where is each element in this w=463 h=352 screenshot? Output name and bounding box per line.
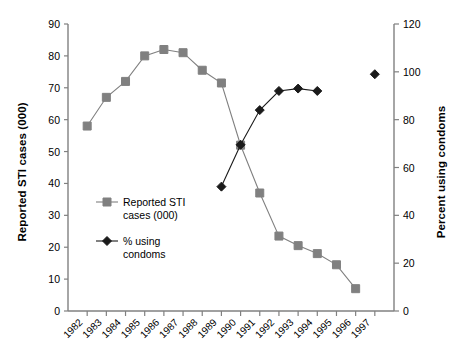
y-axis-left-tick-label: 70 (48, 82, 60, 94)
x-axis-tick-label: 1997 (349, 316, 373, 340)
y-axis-right-tick-label: 0 (403, 305, 409, 317)
legend-label-line2: condoms (123, 248, 166, 260)
x-axis-tick-label: 1996 (330, 316, 354, 340)
x-axis: 1982198319841985198619871988198919901991… (61, 311, 394, 340)
data-point-marker[interactable] (122, 77, 130, 85)
y-axis-left: 0102030405060708090 (48, 18, 68, 317)
x-axis-tick-label: 1995 (310, 316, 334, 340)
y-axis-left-tick-label: 90 (48, 18, 60, 30)
legend-label-line1: % using (123, 235, 161, 247)
data-point-marker[interactable] (332, 261, 340, 269)
x-axis-tick-label: 1984 (99, 316, 123, 340)
data-point-marker[interactable] (370, 70, 379, 79)
x-axis-tick-label: 1988 (176, 316, 200, 340)
chart-legend: Reported STIcases (000)% usingcondoms (96, 196, 185, 260)
y-axis-right-tick-label: 100 (403, 66, 421, 78)
x-axis-tick-label: 1994 (291, 316, 315, 340)
x-axis-tick-label: 1985 (119, 316, 143, 340)
y-axis-right: 020406080100120 (394, 18, 421, 317)
x-axis-tick-label: 1991 (234, 316, 258, 340)
data-point-marker[interactable] (352, 285, 360, 293)
x-axis-tick-label: 1993 (272, 316, 296, 340)
chart-plot-area: 0102030405060708090 020406080100120 1982… (0, 0, 463, 352)
x-axis-tick-label: 1987 (157, 316, 181, 340)
data-point-marker[interactable] (217, 79, 225, 87)
legend-label-line1: Reported STI (123, 196, 185, 208)
legend-marker-diamond (103, 237, 112, 246)
x-axis-tick-label: 1982 (61, 316, 85, 340)
data-point-marker[interactable] (141, 52, 149, 60)
data-point-marker[interactable] (83, 122, 91, 130)
data-point-marker[interactable] (294, 84, 303, 93)
y-axis-right-tick-label: 60 (403, 162, 415, 174)
data-point-marker[interactable] (160, 46, 168, 54)
x-axis-tick-label: 1992 (253, 316, 277, 340)
series-line-condoms (221, 89, 317, 187)
y-axis-right-tick-label: 40 (403, 209, 415, 221)
data-point-marker[interactable] (179, 49, 187, 57)
data-point-marker[interactable] (294, 242, 302, 250)
data-point-marker[interactable] (102, 93, 110, 101)
legend-marker-square (103, 198, 111, 206)
x-axis-tick-label: 1986 (138, 316, 162, 340)
legend-label-line2: cases (000) (123, 209, 178, 221)
chart-figure: Reported STI cases (000) Percent using c… (0, 0, 463, 352)
y-axis-left-tick-label: 60 (48, 114, 60, 126)
data-point-marker[interactable] (313, 250, 321, 258)
x-axis-tick-label: 1990 (214, 316, 238, 340)
y-axis-left-tick-label: 50 (48, 146, 60, 158)
y-axis-right-tick-label: 120 (403, 18, 421, 30)
data-point-marker[interactable] (198, 66, 206, 74)
y-axis-left-tick-label: 40 (48, 177, 60, 189)
data-point-marker[interactable] (275, 232, 283, 240)
data-point-marker[interactable] (256, 189, 264, 197)
y-axis-left-tick-label: 20 (48, 241, 60, 253)
y-axis-left-tick-label: 30 (48, 209, 60, 221)
y-axis-right-tick-label: 80 (403, 114, 415, 126)
y-axis-left-tick-label: 10 (48, 273, 60, 285)
y-axis-left-tick-label: 80 (48, 50, 60, 62)
x-axis-tick-label: 1989 (195, 316, 219, 340)
x-axis-tick-label: 1983 (80, 316, 104, 340)
y-axis-right-tick-label: 20 (403, 257, 415, 269)
data-point-marker[interactable] (313, 86, 322, 95)
y-axis-left-tick-label: 0 (54, 305, 60, 317)
data-point-marker[interactable] (217, 182, 226, 191)
